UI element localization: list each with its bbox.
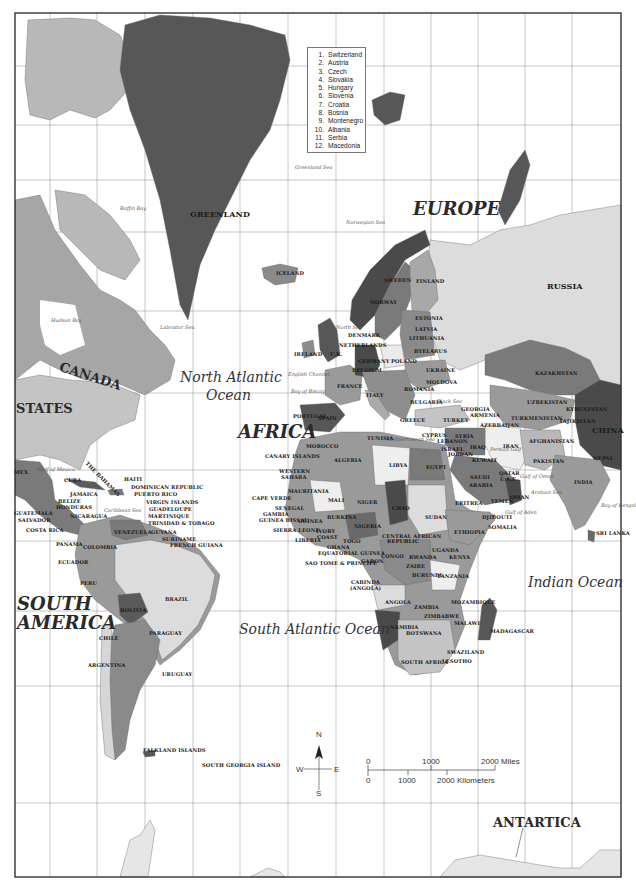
legend-country-name: Serbia xyxy=(328,134,347,142)
country-label: REPUBLIC xyxy=(387,539,419,544)
country-label: UKRAINE xyxy=(426,368,455,373)
country-label: ARMENIA xyxy=(470,413,500,418)
country-label: UGANDA xyxy=(432,548,459,553)
svalbard xyxy=(372,92,405,125)
country-label: FRENCH GUIANA xyxy=(170,543,223,548)
united-states xyxy=(15,375,140,470)
region-label: ANTARTICA xyxy=(493,816,581,829)
country-label: SALVADOR xyxy=(18,518,51,523)
country-label: RUSSIA xyxy=(547,282,583,290)
country-label: IRAN xyxy=(503,444,519,449)
country-label: DENMARK xyxy=(348,333,380,338)
legend-number: 4. xyxy=(311,76,328,84)
country-label: IRAQ xyxy=(470,445,486,450)
legend-country-name: Slovakia xyxy=(328,76,353,84)
legend-item: 7.Croatia xyxy=(311,101,365,109)
country-label: U.K. xyxy=(330,352,343,357)
country-label: ICELAND xyxy=(276,271,304,276)
legend-number: 12. xyxy=(311,142,328,150)
country-label: KENYA xyxy=(449,555,470,560)
legend-country-name: Croatia xyxy=(328,101,349,109)
country-label: BYELARUS xyxy=(414,349,447,354)
country-label: NIGER xyxy=(357,500,377,505)
country-label: JAMAICA xyxy=(70,492,98,497)
sea-label: Bay of Bengal xyxy=(601,503,636,508)
sea-label: Gulf of Mexico xyxy=(38,467,75,472)
country-label: NETHERLANDS xyxy=(339,343,386,348)
compass-west-label: W xyxy=(296,765,304,774)
country-label: NICARAGUA xyxy=(70,514,107,519)
country-label: ESTONIA xyxy=(415,316,443,321)
country-label: PUERTO RICO xyxy=(134,492,177,497)
country-label: VIRGIN ISLANDS xyxy=(146,500,198,505)
canadian-arctic xyxy=(25,18,130,120)
country-label: ZAIRE xyxy=(406,564,425,569)
legend-number: 10. xyxy=(311,126,328,134)
country-label: PARAGUAY xyxy=(149,631,182,636)
legend-item: 12.Macedonia xyxy=(311,142,365,150)
country-label: KYRGYZSTAN xyxy=(566,407,607,412)
legend-number: 5. xyxy=(311,84,328,92)
country-label: URUGUAY xyxy=(162,672,192,677)
country-label: SAHARA xyxy=(281,475,307,480)
country-label: MALAWI xyxy=(454,621,480,626)
country-label: BURKINA xyxy=(327,515,357,520)
country-label: MOROCCO xyxy=(306,444,339,449)
legend-country-name: Albania xyxy=(328,126,350,134)
country-label: NIGERIA xyxy=(354,524,381,529)
country-label: LIBERIA xyxy=(295,538,321,543)
country-label: CUBA xyxy=(64,478,81,483)
country-label: ROMANIA xyxy=(404,387,435,392)
country-label: BRAZIL xyxy=(165,597,188,602)
country-label: NEPAL xyxy=(593,456,613,461)
country-label: MEX xyxy=(14,470,28,475)
antartica-pointer xyxy=(516,828,523,857)
country-label: FALKLAND ISLANDS xyxy=(143,748,206,753)
country-label: SRI LANKA xyxy=(596,531,630,536)
compass-east-label: E xyxy=(334,765,339,774)
country-label: ZIMBABWE xyxy=(424,614,459,619)
legend-number: 9. xyxy=(311,117,328,125)
legend-country-name: Slovenia xyxy=(328,92,353,100)
country-label: PANAMA xyxy=(56,542,83,547)
sea-label: Bay of Biscay xyxy=(291,389,325,394)
sea-label: North Sea xyxy=(336,325,362,330)
country-label: POLAND xyxy=(391,359,417,364)
country-label: NORWAY xyxy=(370,300,397,305)
country-label: ETHIOPIA xyxy=(454,530,485,535)
continent-label: AFRICA xyxy=(238,423,316,441)
country-label: AFGHANISTAN xyxy=(529,439,574,444)
country-label: GREECE xyxy=(400,418,425,423)
country-label: HAITI xyxy=(124,477,142,482)
legend-country-name: Switzerland xyxy=(328,51,362,59)
country-label: FRANCE xyxy=(337,384,362,389)
country-label: ARGENTINA xyxy=(88,663,125,668)
country-label: COSTA RICA xyxy=(26,528,64,533)
continent-label: SOUTH xyxy=(17,595,92,613)
country-label: KAZAKHSTAN xyxy=(535,371,578,376)
country-label: INDIA xyxy=(574,480,593,485)
country-label: MOLDOVA xyxy=(426,380,457,385)
country-label: BULGARIA xyxy=(410,400,443,405)
country-label: ALGERIA xyxy=(334,458,362,463)
country-label: PERU xyxy=(80,581,97,586)
country-label: UZBEKISTAN xyxy=(527,400,568,405)
country-label: ERITREA xyxy=(455,501,483,506)
legend-country-name: Bosnia xyxy=(328,109,348,117)
country-label: CHILE xyxy=(99,636,119,641)
sea-label: English Channel xyxy=(288,372,330,377)
country-label: PAKISTAN xyxy=(533,459,564,464)
antarctica-small xyxy=(250,868,285,877)
legend-number: 1. xyxy=(311,51,328,59)
compass-south-label: S xyxy=(316,789,321,798)
sea-label: Gulf of Oman xyxy=(520,474,554,479)
antarctica xyxy=(440,850,621,877)
country-label: SOMALIA xyxy=(488,525,517,530)
country-label: BOLIVIA xyxy=(120,608,146,613)
country-label: LESOTHO xyxy=(442,659,472,664)
country-label: DOMINICAN REPUBLIC xyxy=(131,485,203,490)
country-label: BURUNDI xyxy=(412,573,442,578)
legend-country-name: Hungary xyxy=(328,84,353,92)
country-label: GREENLAND xyxy=(190,210,250,218)
country-label: MOZAMBIQUE xyxy=(451,600,496,605)
